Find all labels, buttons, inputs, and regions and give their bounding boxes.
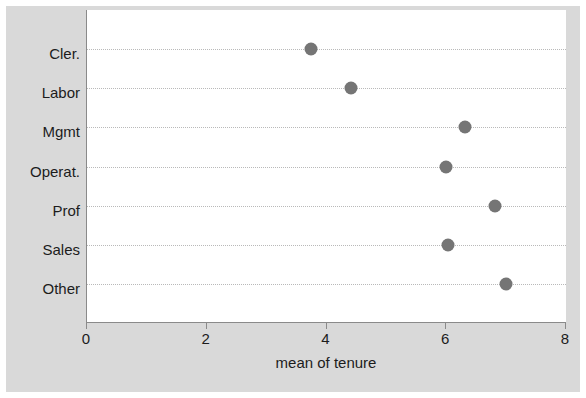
y-axis-tick-label: Operat. [30, 162, 80, 179]
y-axis-tick-label: Cler. [49, 45, 80, 62]
x-axis-tickmark [206, 323, 207, 329]
x-axis-tick-label: 2 [202, 330, 210, 347]
data-point [499, 277, 512, 290]
y-axis-tick-label: Mgmt [43, 123, 81, 140]
x-axis-tickmark [326, 323, 327, 329]
data-point [442, 238, 455, 251]
data-point [304, 43, 317, 56]
gridline-sales [87, 245, 566, 246]
y-axis-tick-label: Other [42, 279, 80, 296]
x-axis-tickmark [565, 323, 566, 329]
x-axis-title: mean of tenure [86, 354, 566, 371]
data-point [458, 121, 471, 134]
x-axis-tick-label: 8 [561, 330, 569, 347]
gridline-other [87, 284, 566, 285]
x-axis-tick-label: 0 [82, 330, 90, 347]
y-axis-label-group: Cler.LaborMgmtOperat.ProfSalesOther [6, 10, 80, 323]
x-axis-tick-label: 4 [321, 330, 329, 347]
x-axis-tickmark [445, 323, 446, 329]
dot-plot-figure: Cler.LaborMgmtOperat.ProfSalesOther 0246… [0, 0, 586, 398]
x-axis-tick-group: 02468 [86, 323, 566, 353]
x-axis-tickmark [86, 323, 87, 329]
plot-area [86, 10, 566, 323]
gridline-labor [87, 88, 566, 89]
gridline-mgmt [87, 127, 566, 128]
y-axis-tick-label: Labor [42, 84, 80, 101]
gridline-operat [87, 167, 566, 168]
y-axis-tick-label: Prof [52, 201, 80, 218]
x-axis-tick-label: 6 [441, 330, 449, 347]
data-point [440, 160, 453, 173]
data-point [345, 82, 358, 95]
gridline-cler [87, 49, 566, 50]
data-point [489, 199, 502, 212]
y-axis-tick-label: Sales [42, 240, 80, 257]
